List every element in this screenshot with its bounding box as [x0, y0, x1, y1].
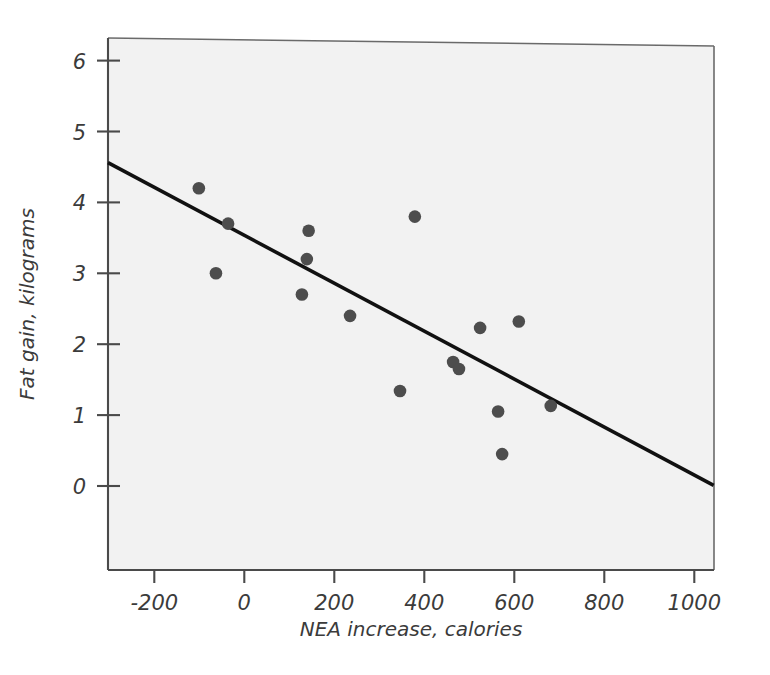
y-tick-label-3: 3	[73, 262, 86, 286]
x-tick-label-0: 0	[238, 591, 251, 615]
x-tick-label-1000: 1000	[668, 591, 721, 615]
data-point	[409, 210, 422, 223]
data-point	[496, 448, 509, 461]
x-tick-label-200: 200	[314, 591, 354, 615]
data-point	[302, 224, 315, 237]
y-tick-label-6: 6	[73, 50, 86, 74]
y-axis-title: Fat gain, kilograms	[15, 208, 39, 400]
y-tick-label-2: 2	[73, 333, 86, 357]
x-tick-label-800: 800	[584, 591, 624, 615]
x-axis-tick-labels: -20002004006008001000	[130, 591, 721, 615]
x-tick-label-600: 600	[494, 591, 534, 615]
x-axis-title: NEA increase, calories	[300, 617, 523, 641]
x-axis-ticks	[154, 570, 694, 583]
data-point	[296, 288, 309, 301]
data-point	[210, 267, 223, 280]
data-point	[474, 322, 487, 335]
data-point	[544, 400, 557, 413]
y-tick-label-1: 1	[73, 404, 86, 428]
data-point	[513, 315, 526, 328]
data-point	[394, 385, 407, 398]
scatter-plot-figure: -20002004006008001000 0123456 NEA increa…	[0, 0, 770, 675]
data-point	[193, 182, 206, 195]
data-point	[301, 253, 314, 266]
y-axis-tick-labels: 0123456	[73, 50, 86, 499]
plot-canvas: -20002004006008001000 0123456 NEA increa…	[0, 0, 770, 675]
data-point	[453, 363, 466, 376]
x-tick-label-400: 400	[404, 591, 444, 615]
data-point	[492, 405, 505, 418]
y-tick-label-4: 4	[73, 191, 86, 215]
data-point	[222, 217, 235, 230]
plot-area-background	[108, 38, 714, 570]
y-tick-label-5: 5	[73, 121, 86, 145]
data-point	[344, 310, 357, 323]
y-tick-label-0: 0	[73, 475, 86, 499]
x-tick-label--200: -200	[130, 591, 178, 615]
